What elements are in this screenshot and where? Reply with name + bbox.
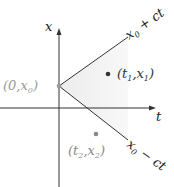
t-axis-label: t (156, 109, 162, 124)
point-1-label: (t1,x1) (117, 66, 154, 83)
t-axis-arrow-icon (149, 106, 156, 111)
cone-region (59, 37, 128, 140)
cone-diagram: x t x0 + ct x0 − ct (0,x0) (t1,x1) (t2,x… (0, 0, 174, 187)
point-2 (94, 132, 99, 137)
x-axis-label: x (45, 19, 53, 34)
x-axis-arrow-icon (57, 28, 62, 35)
upper-line-label: x0 + ct (122, 4, 169, 44)
lower-line-label: x0 − ct (123, 136, 170, 176)
origin-point-label: (0,x0) (3, 78, 38, 95)
point-1 (106, 72, 111, 77)
point-2-label: (t2,x2) (68, 143, 105, 160)
origin-point (57, 84, 62, 89)
